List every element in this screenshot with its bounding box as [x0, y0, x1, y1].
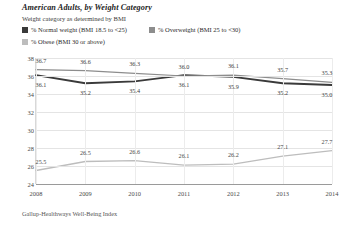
legend-label-overweight: % Overweight (BMI 25 to <30) [158, 26, 241, 34]
data-label: 35.2 [80, 89, 91, 96]
data-label: 26.5 [80, 149, 91, 156]
x-tick-label: 2009 [79, 190, 92, 197]
legend-row-2: % Obese (BMI 30 or above) [22, 38, 332, 50]
x-tick-label: 2008 [30, 190, 43, 197]
gridline-vertical [36, 58, 37, 184]
chart-legend: % Normal weight (BMI 18.5 to <25) % Over… [22, 26, 332, 50]
chart-subtitle: Weight category as determined by BMI [22, 15, 126, 22]
y-tick-label: 32 [28, 109, 34, 116]
legend-swatch-obese [22, 39, 28, 45]
y-tick-label: 34 [28, 91, 34, 98]
data-label: 35.7 [277, 66, 288, 73]
x-tick-label: 2014 [326, 190, 339, 197]
gridline-vertical [233, 58, 234, 184]
gridline-vertical [135, 58, 136, 184]
chart-figure: American Adults, by Weight Category Weig… [0, 0, 342, 227]
data-label: 27.1 [277, 143, 288, 150]
y-tick-label: 24 [28, 181, 34, 188]
data-label: 36.1 [228, 62, 239, 69]
source-note: Gallup-Healthways Well-Being Index [22, 210, 117, 217]
gridline-vertical [184, 58, 185, 184]
data-label: 36.1 [179, 81, 190, 88]
x-tick-label: 2011 [178, 190, 191, 197]
legend-label-obese: % Obese (BMI 30 or above) [31, 38, 105, 46]
data-label: 26.6 [129, 148, 140, 155]
y-axis-labels: 2426283032343638 [18, 58, 34, 184]
legend-swatch-overweight [149, 27, 155, 33]
y-tick-label: 28 [28, 145, 34, 152]
legend-label-normal-weight: % Normal weight (BMI 18.5 to <25) [31, 26, 127, 34]
gridline-vertical [283, 58, 284, 184]
gridline-horizontal [36, 184, 332, 185]
y-tick-label: 30 [28, 127, 34, 134]
x-axis-labels: 2008200920102011201220132014 [36, 190, 332, 202]
data-label: 27.7 [322, 138, 333, 145]
data-label: 35.0 [322, 91, 333, 98]
data-label: 35.4 [129, 87, 140, 94]
gridline-vertical [85, 58, 86, 184]
data-label: 35.3 [322, 69, 333, 76]
x-tick-label: 2013 [276, 190, 289, 197]
legend-item-normal-weight[interactable]: % Normal weight (BMI 18.5 to <25) [22, 26, 127, 34]
y-tick-label: 26 [28, 163, 34, 170]
data-label: 35.9 [228, 83, 239, 90]
legend-item-obese[interactable]: % Obese (BMI 30 or above) [22, 38, 105, 46]
legend-item-overweight[interactable]: % Overweight (BMI 25 to <30) [149, 26, 241, 34]
data-label: 36.3 [129, 60, 140, 67]
data-label: 36.1 [36, 81, 47, 88]
data-label: 35.2 [277, 89, 288, 96]
x-tick-label: 2010 [128, 190, 141, 197]
gridline-vertical [332, 58, 333, 184]
data-label: 25.5 [36, 158, 47, 165]
data-label: 26.1 [179, 152, 190, 159]
legend-swatch-normal-weight [22, 27, 28, 33]
data-label: 36.0 [179, 63, 190, 70]
chart-title: American Adults, by Weight Category [22, 3, 152, 12]
y-tick-label: 36 [28, 73, 34, 80]
data-label: 36.6 [80, 58, 91, 65]
data-label: 36.7 [36, 57, 47, 64]
x-tick-label: 2012 [227, 190, 240, 197]
plot-area: 36.135.235.436.135.935.235.036.736.636.3… [36, 58, 332, 184]
legend-row-1: % Normal weight (BMI 18.5 to <25) % Over… [22, 26, 332, 38]
y-tick-label: 38 [28, 55, 34, 62]
data-label: 26.2 [228, 151, 239, 158]
